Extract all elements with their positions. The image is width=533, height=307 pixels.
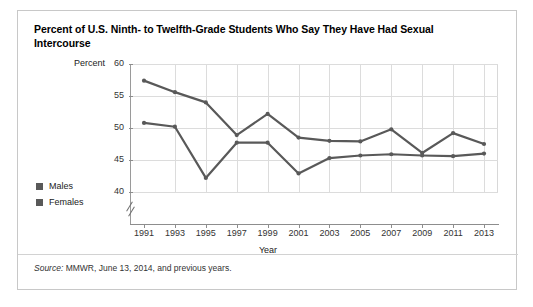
data-point xyxy=(142,121,146,125)
data-point xyxy=(327,156,331,160)
y-tick-label-60: 60 xyxy=(98,58,124,68)
series-line-males xyxy=(144,81,484,153)
y-tick-mark-60 xyxy=(129,64,133,65)
legend-swatch-icon xyxy=(36,183,43,190)
data-point xyxy=(204,100,208,104)
y-tick-mark-40 xyxy=(129,192,133,193)
x-tick-mark-2009 xyxy=(422,224,423,228)
data-point xyxy=(204,176,208,180)
data-point xyxy=(389,152,393,156)
x-tick-mark-1999 xyxy=(268,224,269,228)
legend-swatch-icon xyxy=(36,199,43,206)
series-container xyxy=(130,64,498,192)
y-axis-tick-labels: 6055504540 xyxy=(96,64,124,192)
x-tick-label-2013: 2013 xyxy=(466,228,502,238)
plot-area xyxy=(130,64,498,192)
data-point xyxy=(173,125,177,129)
source-note: Source: MMWR, June 13, 2014, and previou… xyxy=(34,263,232,273)
source-text: MMWR, June 13, 2014, and previous years. xyxy=(63,263,231,273)
x-tick-mark-2007 xyxy=(391,224,392,228)
x-tick-mark-1995 xyxy=(206,224,207,228)
data-point xyxy=(173,90,177,94)
legend-label: Males xyxy=(49,181,73,191)
legend-item-females: Females xyxy=(36,195,122,209)
data-point xyxy=(142,79,146,83)
data-point xyxy=(482,152,486,156)
legend-item-males: Males xyxy=(36,179,122,193)
y-tick-label-55: 55 xyxy=(98,90,124,100)
x-tick-mark-2001 xyxy=(299,224,300,228)
y-tick-mark-55 xyxy=(129,96,133,97)
data-point xyxy=(389,127,393,131)
source-divider xyxy=(18,254,518,255)
x-tick-mark-2013 xyxy=(484,224,485,228)
y-tick-mark-50 xyxy=(129,128,133,129)
x-tick-mark-2011 xyxy=(453,224,454,228)
legend: MalesFemales xyxy=(36,179,122,211)
figure-panel: Percent of U.S. Ninth- to Twelfth-Grade … xyxy=(17,10,517,290)
x-tick-mark-2003 xyxy=(329,224,330,228)
data-point xyxy=(451,154,455,158)
data-point xyxy=(296,171,300,175)
data-point xyxy=(327,139,331,143)
legend-label: Females xyxy=(49,197,84,207)
data-point xyxy=(451,131,455,135)
data-point xyxy=(266,112,270,116)
x-tick-mark-1993 xyxy=(175,224,176,228)
axis-break-icon xyxy=(124,201,138,217)
series-line-females xyxy=(144,123,484,178)
data-point xyxy=(358,139,362,143)
x-tick-mark-1991 xyxy=(144,224,145,228)
figure-title: Percent of U.S. Ninth- to Twelfth-Grade … xyxy=(34,22,474,50)
y-tick-mark-45 xyxy=(129,160,133,161)
gridline-y-40 xyxy=(130,192,498,193)
x-tick-mark-2005 xyxy=(360,224,361,228)
data-point xyxy=(296,136,300,140)
source-label: Source: xyxy=(34,263,63,273)
x-axis-line xyxy=(130,224,499,225)
data-point xyxy=(266,141,270,145)
y-tick-label-50: 50 xyxy=(98,122,124,132)
data-point xyxy=(235,141,239,145)
data-point xyxy=(420,153,424,157)
series-females xyxy=(142,121,486,180)
series-males xyxy=(142,79,486,156)
x-tick-mark-1997 xyxy=(237,224,238,228)
data-point xyxy=(358,153,362,157)
y-tick-label-45: 45 xyxy=(98,154,124,164)
data-point xyxy=(235,133,239,137)
data-point xyxy=(482,142,486,146)
